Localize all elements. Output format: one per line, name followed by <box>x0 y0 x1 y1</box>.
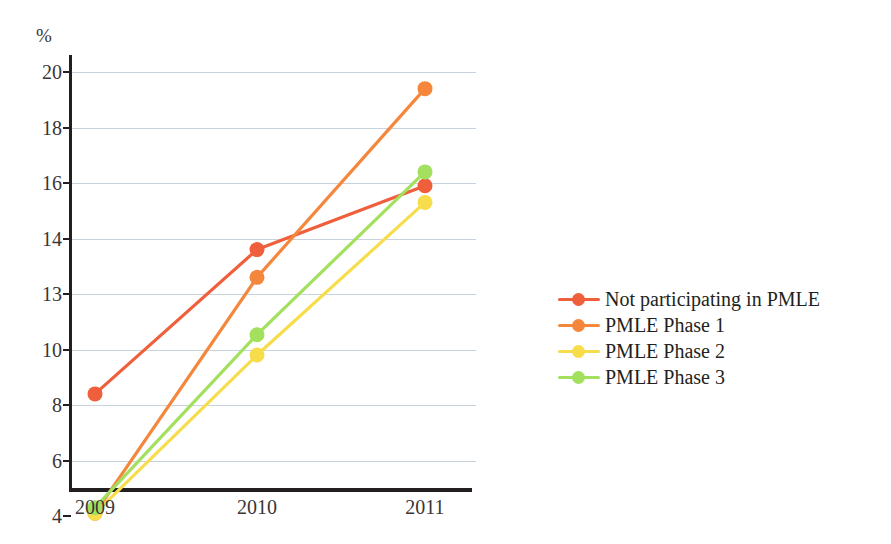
x-axis-tick-label: 2010 <box>212 497 302 517</box>
data-point-marker <box>250 327 265 342</box>
legend-label: Not participating in PMLE <box>600 289 820 309</box>
legend-item[interactable]: PMLE Phase 3 <box>558 364 888 390</box>
legend-label: PMLE Phase 3 <box>600 367 725 387</box>
legend-item[interactable]: PMLE Phase 2 <box>558 338 888 364</box>
x-axis-tick-label: 2011 <box>380 497 470 517</box>
data-point-marker <box>418 164 433 179</box>
series-line <box>95 186 425 394</box>
legend-label: PMLE Phase 2 <box>600 341 725 361</box>
legend-swatch-icon <box>558 290 600 308</box>
data-point-marker <box>250 242 265 257</box>
series-line <box>95 89 425 514</box>
legend-label: PMLE Phase 1 <box>600 315 725 335</box>
data-point-marker <box>418 178 433 193</box>
legend-item[interactable]: Not participating in PMLE <box>558 286 888 312</box>
data-point-marker <box>250 270 265 285</box>
plot-area: % 201816141310864 200920102011 <box>0 0 540 544</box>
data-point-marker <box>418 195 433 210</box>
series-pmle-phase-1 <box>88 81 433 521</box>
data-point-marker <box>88 386 103 401</box>
x-axis-tick-label: 2009 <box>50 497 140 517</box>
data-point-marker <box>418 81 433 96</box>
series-layer <box>0 0 540 544</box>
line-chart-figure: % 201816141310864 200920102011 Not parti… <box>0 0 891 544</box>
legend-item[interactable]: PMLE Phase 1 <box>558 312 888 338</box>
chart-legend: Not participating in PMLEPMLE Phase 1PML… <box>558 286 888 390</box>
legend-swatch-icon <box>558 368 600 386</box>
data-point-marker <box>250 348 265 363</box>
series-not-participating-in-pmle <box>88 178 433 401</box>
legend-swatch-icon <box>558 316 600 334</box>
legend-swatch-icon <box>558 342 600 360</box>
series-pmle-phase-3 <box>88 164 433 515</box>
